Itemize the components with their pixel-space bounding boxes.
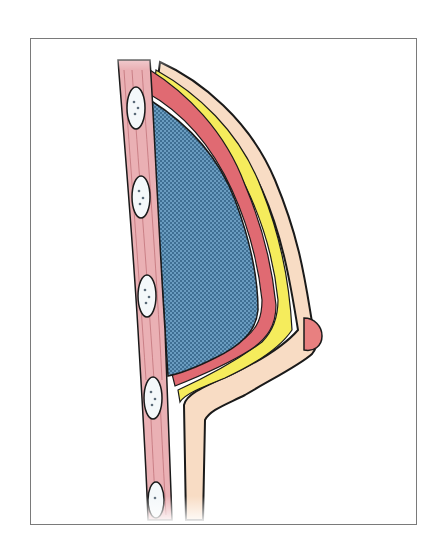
rib [132,176,150,218]
rib [144,377,162,419]
nipple [304,318,322,350]
rib [127,87,145,129]
anatomy-illustration [0,0,443,546]
rib [138,275,156,317]
